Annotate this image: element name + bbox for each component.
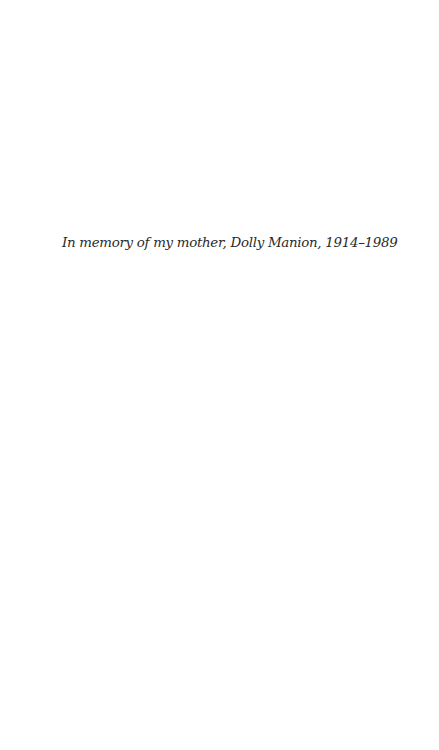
dedication-text: In memory of my mother, Dolly Manion, 19…: [62, 234, 397, 252]
book-page: In memory of my mother, Dolly Manion, 19…: [0, 0, 439, 750]
